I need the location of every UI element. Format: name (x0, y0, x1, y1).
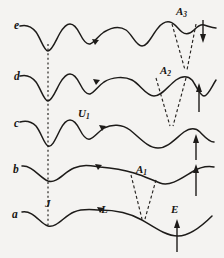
annotation-u1-base: U (78, 107, 86, 119)
curve-d (20, 74, 216, 101)
annotation-a1-sub: 1 (143, 168, 147, 177)
row-label-a: a (12, 209, 18, 221)
tie-line-a2-left (156, 78, 170, 126)
curve-a (22, 210, 212, 237)
curve-e (20, 22, 216, 51)
tick-mark-curve-d (93, 79, 100, 85)
row-label-e: e (14, 20, 19, 32)
arrow-e-head (174, 219, 180, 228)
row-label-b: b (13, 164, 19, 176)
curve-b (22, 166, 214, 184)
annotation-e-energy: E (171, 204, 178, 215)
tie-line-a1-right (145, 180, 156, 219)
annotation-u1-sub: 1 (86, 112, 90, 121)
annotation-l: L (101, 204, 108, 215)
annotation-a2-sub: 2 (167, 69, 171, 78)
tie-line-a2-right (173, 78, 186, 126)
row-label-c: c (14, 118, 19, 130)
annotation-a1: A1 (136, 164, 147, 176)
annotation-a3-sub: 3 (183, 10, 187, 19)
curve-c (20, 120, 214, 148)
arrow-e-top-head (200, 34, 206, 43)
arrow-c-head (193, 134, 199, 143)
annotation-a2: A2 (160, 65, 171, 77)
tie-line-a3-right (187, 24, 196, 70)
tie-line-a1-left (131, 175, 142, 219)
figure-container: e d c b a A3 A2 U1 A1 J L E (0, 0, 224, 258)
row-label-d: d (14, 71, 20, 83)
annotation-u1: U1 (78, 108, 90, 120)
tie-line-a3-left (172, 24, 185, 70)
annotation-j: J (45, 198, 51, 209)
annotation-a3: A3 (176, 6, 187, 18)
figure-canvas (0, 0, 224, 258)
